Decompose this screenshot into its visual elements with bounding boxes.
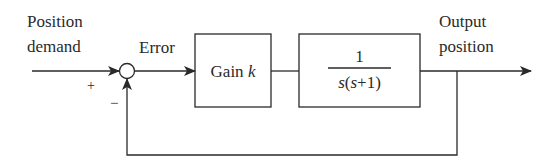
- feedback-path: [127, 71, 457, 155]
- gain-block-label: Gain k: [211, 62, 256, 81]
- input-label-line1: Position: [27, 12, 83, 31]
- minus-sign: −: [110, 95, 118, 111]
- output-label-line2: position: [439, 37, 494, 56]
- gain-label-text: Gain: [211, 62, 248, 81]
- plant-denominator: s(s+1): [338, 73, 381, 92]
- input-label-line2: demand: [27, 37, 81, 56]
- plant-numerator: 1: [355, 47, 364, 66]
- block-diagram: Position demand + Error Gain k 1 s(s+1) …: [0, 0, 559, 167]
- summing-junction: [120, 64, 135, 79]
- plant-transfer-function-block: [299, 34, 420, 107]
- gain-variable: k: [248, 62, 256, 81]
- output-label-line1: Output: [439, 12, 487, 31]
- error-label: Error: [139, 38, 175, 57]
- plus-sign: +: [87, 78, 95, 93]
